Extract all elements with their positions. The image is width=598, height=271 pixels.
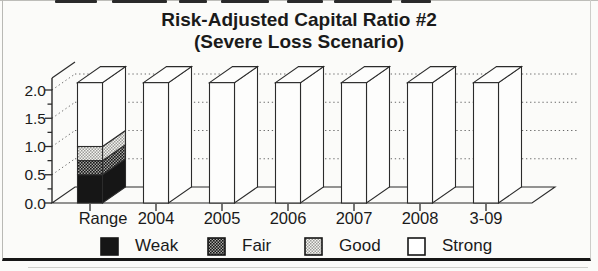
legend-label: Fair (242, 236, 271, 256)
legend-label: Strong (442, 236, 492, 256)
scan-artifact (221, 0, 269, 3)
bar-side-Strong (433, 67, 456, 203)
bar-front-Strong (474, 83, 499, 203)
legend-item-good: Good (304, 236, 381, 256)
scan-artifact (334, 0, 392, 3)
bar-3-09 (474, 67, 522, 203)
legend-item-weak: Weak (100, 236, 178, 256)
bar-side-Strong (367, 67, 390, 203)
bar-2004 (144, 67, 192, 203)
bar-side-Strong (169, 67, 192, 203)
x-category-label: Range (79, 209, 128, 227)
bar-chart-plot: 0.00.51.01.52.0Range20042005200620072008… (0, 50, 598, 232)
bar-front-Strong (408, 83, 433, 203)
legend-swatch-strong (407, 237, 426, 256)
gridline-depth (52, 102, 75, 118)
scan-artifact (112, 0, 167, 3)
y-tick-label: 0.5 (24, 166, 46, 183)
bar-Range (78, 67, 126, 203)
bar-front-Strong (78, 83, 103, 147)
figure-page: Risk-Adjusted Capital Ratio #2 (Severe L… (0, 0, 598, 271)
y-tick-label: 1.5 (24, 110, 46, 127)
x-category-label: 2006 (270, 209, 307, 227)
y-tick-label: 0.0 (24, 195, 46, 212)
legend-swatch-good (304, 237, 323, 256)
bar-side-Strong (235, 67, 258, 203)
bar-front-Good (78, 147, 103, 161)
x-category-label: 2005 (204, 209, 241, 227)
legend-label: Good (339, 236, 381, 256)
bar-2005 (210, 67, 258, 203)
bar-front-Strong (210, 83, 235, 203)
scan-artifact (179, 0, 207, 3)
legend-label: Weak (135, 236, 178, 256)
bar-2007 (342, 67, 390, 203)
y-tick-label: 1.0 (24, 138, 46, 155)
scan-artifact (55, 0, 97, 3)
scan-artifact (401, 0, 431, 3)
x-category-label: 3-09 (469, 209, 502, 227)
bar-front-Strong (144, 83, 169, 203)
chart-title: Risk-Adjusted Capital Ratio #2 (0, 9, 598, 31)
bar-2008 (408, 67, 456, 203)
chart-title-block: Risk-Adjusted Capital Ratio #2 (Severe L… (0, 9, 598, 53)
x-category-label: 2004 (138, 209, 175, 227)
gridline-depth (52, 159, 75, 175)
legend-item-fair: Fair (207, 236, 271, 256)
scan-artifact (287, 0, 323, 3)
bar-2006 (276, 67, 324, 203)
chart-legend: WeakFairGoodStrong (0, 236, 598, 258)
bar-side-Strong (301, 67, 324, 203)
scan-bottom-hairline (28, 267, 588, 268)
bar-front-Strong (276, 83, 301, 203)
legend-swatch-weak (100, 237, 119, 256)
bar-front-Weak (78, 175, 103, 203)
legend-swatch-fair (207, 237, 226, 256)
legend-item-strong: Strong (407, 236, 492, 256)
gridline-depth (52, 74, 75, 90)
x-category-label: 2008 (402, 209, 439, 227)
gridline-depth (52, 131, 75, 147)
y-tick-label: 2.0 (24, 82, 46, 99)
bar-front-Strong (342, 83, 367, 203)
wall-top-edge (52, 62, 75, 78)
bar-side-Strong (499, 67, 522, 203)
bar-front-Fair (78, 161, 103, 175)
x-category-label: 2007 (336, 209, 373, 227)
